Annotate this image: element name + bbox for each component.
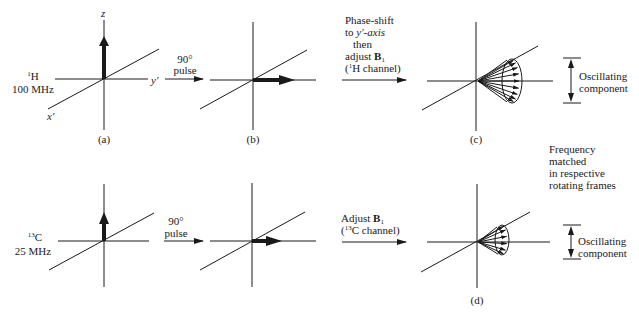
panel-label-c: (c) xyxy=(460,133,492,145)
axes-panel-d xyxy=(421,184,550,288)
axes-panel-b xyxy=(200,22,316,130)
pulse-label-row2: pulse xyxy=(156,227,196,239)
pulse-label-row1: pulse xyxy=(165,64,205,76)
precession-cone xyxy=(478,59,522,103)
vector-arrowhead xyxy=(99,36,109,46)
oscillating-label-row2-line1: Oscillating xyxy=(578,235,626,247)
transfer-text-row2-line2: (13C channel) xyxy=(341,224,400,236)
panel-label-a: (a) xyxy=(88,133,120,145)
transfer-text-row1-line1: Phase-shift xyxy=(345,14,394,26)
frequency-note-line4: rotating frames xyxy=(549,179,616,191)
transfer-text-row2-line1: Adjust B1 xyxy=(341,212,384,224)
x-axis xyxy=(422,46,538,110)
axes-panel-a2 xyxy=(49,184,154,287)
panel-label-d: (d) xyxy=(461,294,493,306)
transfer-text-row1-line2: to y′-axis xyxy=(345,26,385,38)
transfer-text-row1-line3: then xyxy=(353,38,372,50)
z-axis-label: z xyxy=(101,7,105,19)
precession-vector xyxy=(478,63,516,81)
frequency-note-line3: in respective xyxy=(549,167,605,179)
nucleus-label-row2: 13C xyxy=(10,231,60,243)
axes-panel-b2 xyxy=(200,183,316,287)
vector-arrowhead xyxy=(99,212,109,224)
oscillating-label-row2-line2: component xyxy=(578,247,627,259)
frequency-label-row1: 100 MHz xyxy=(5,83,61,95)
x-axis-label: x′ xyxy=(47,110,54,122)
y-axis-label: y′ xyxy=(151,74,158,86)
frequency-note-line2: matched xyxy=(549,155,586,167)
diagram-canvas xyxy=(0,0,639,318)
frequency-label-row2: 25 MHz xyxy=(8,245,58,257)
precession-cone xyxy=(478,225,509,255)
oscillating-label-row1-line2: component xyxy=(579,82,628,94)
oscillating-label-row1-line1: Oscillating xyxy=(579,70,627,82)
axes-panel-c xyxy=(422,22,553,131)
vector-arrowhead xyxy=(266,236,282,246)
frequency-note-line1: Frequency xyxy=(549,143,595,155)
panel-label-b: (b) xyxy=(237,133,269,145)
pulse-angle-row2: 90° xyxy=(156,215,196,227)
transfer-text-row1-line5: (1H channel) xyxy=(345,62,401,74)
axes-panel-a xyxy=(48,20,159,130)
nucleus-label-row1: 1H xyxy=(8,70,58,82)
transfer-text-row1-line4: adjust B1 xyxy=(345,50,385,62)
vector-arrowhead xyxy=(279,75,295,85)
